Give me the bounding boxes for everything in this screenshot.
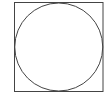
inscribed-circle — [15, 3, 103, 91]
diagram-canvas — [0, 0, 105, 95]
